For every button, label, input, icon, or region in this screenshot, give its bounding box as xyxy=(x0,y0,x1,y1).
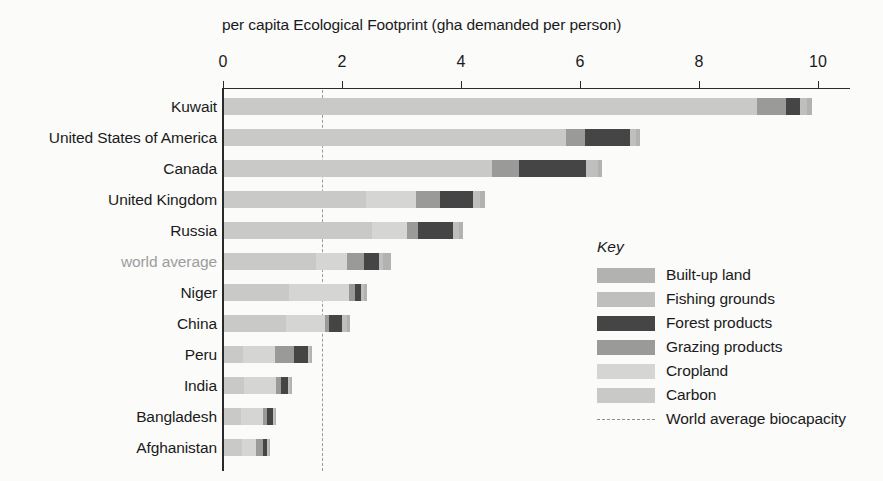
x-tick-label-6: 6 xyxy=(576,53,585,71)
bar-segment-built-up-land xyxy=(310,346,312,363)
bar-segment-carbon xyxy=(224,439,242,456)
category-label-united-states-of-america: United States of America xyxy=(49,127,217,148)
legend-label: World average biocapacity xyxy=(666,410,846,428)
stacked-bar[interactable] xyxy=(224,315,350,332)
bar-row: United Kingdom xyxy=(0,189,883,210)
bar-segment-cropland xyxy=(286,315,325,332)
bar-segment-carbon xyxy=(224,346,243,363)
chart-axis-title: per capita Ecological Footprint (gha dem… xyxy=(222,16,621,34)
legend-swatch xyxy=(597,292,655,307)
category-label-china: China xyxy=(177,313,217,334)
stacked-bar[interactable] xyxy=(224,191,485,208)
bar-segment-carbon xyxy=(224,284,289,301)
bar-segment-grazing-products xyxy=(407,222,418,239)
bar-segment-cropland xyxy=(372,222,408,239)
x-tick-label-2: 2 xyxy=(338,53,347,71)
stacked-bar[interactable] xyxy=(224,160,602,177)
legend-swatch xyxy=(597,268,655,283)
stacked-bar[interactable] xyxy=(224,253,391,270)
x-tick-2 xyxy=(342,81,343,89)
bar-segment-carbon xyxy=(224,408,241,425)
bar-segment-carbon xyxy=(224,253,316,270)
bar-row: United States of America xyxy=(0,127,883,148)
x-tick-label-10: 10 xyxy=(809,53,827,71)
bar-segment-built-up-land xyxy=(459,222,463,239)
bar-segment-cropland xyxy=(242,439,256,456)
bar-segment-grazing-products xyxy=(347,253,364,270)
stacked-bar[interactable] xyxy=(224,98,812,115)
bar-segment-forest-products xyxy=(519,160,587,177)
bar-segment-built-up-land xyxy=(364,284,367,301)
stacked-bar[interactable] xyxy=(224,408,276,425)
bar-segment-cropland xyxy=(241,408,264,425)
category-label-canada: Canada xyxy=(163,158,217,179)
bar-segment-forest-products xyxy=(786,98,800,115)
bar-segment-built-up-land xyxy=(290,377,292,394)
bar-segment-forest-products xyxy=(329,315,342,332)
legend-label: Forest products xyxy=(666,314,772,332)
category-label-afghanistan: Afghanistan xyxy=(136,437,217,458)
stacked-bar[interactable] xyxy=(224,439,270,456)
bar-segment-forest-products xyxy=(364,253,379,270)
legend-item[interactable]: Fishing grounds xyxy=(597,287,877,311)
bar-segment-built-up-land xyxy=(383,253,390,270)
category-label-united-kingdom: United Kingdom xyxy=(108,189,217,210)
legend-item[interactable]: Carbon xyxy=(597,383,877,407)
category-label-niger: Niger xyxy=(180,282,217,303)
legend-item[interactable]: Built-up land xyxy=(597,263,877,287)
legend-item[interactable]: Cropland xyxy=(597,359,877,383)
legend-swatch xyxy=(597,388,655,403)
legend-item[interactable]: World average biocapacity xyxy=(597,407,877,431)
bar-segment-grazing-products xyxy=(492,160,519,177)
stacked-bar[interactable] xyxy=(224,129,640,146)
x-tick-label-0: 0 xyxy=(219,53,228,71)
category-label-world-average: world average xyxy=(121,251,217,272)
bar-segment-built-up-land xyxy=(347,315,351,332)
stacked-bar[interactable] xyxy=(224,222,463,239)
bar-segment-cropland xyxy=(243,346,275,363)
bar-row: Afghanistan xyxy=(0,437,883,458)
bar-segment-built-up-land xyxy=(480,191,485,208)
bar-segment-grazing-products xyxy=(275,346,294,363)
bar-segment-built-up-land xyxy=(636,129,640,146)
bar-segment-carbon xyxy=(224,315,286,332)
legend-item[interactable]: Grazing products xyxy=(597,335,877,359)
x-tick-6 xyxy=(580,81,581,89)
bar-segment-cropland xyxy=(366,191,417,208)
x-tick-label-4: 4 xyxy=(457,53,466,71)
bar-segment-built-up-land xyxy=(807,98,812,115)
stacked-bar[interactable] xyxy=(224,284,367,301)
legend-label: Fishing grounds xyxy=(666,290,775,308)
legend-swatch xyxy=(597,316,655,331)
bar-segment-fishing-grounds xyxy=(586,160,598,177)
category-label-india: India xyxy=(184,375,217,396)
legend-swatch xyxy=(597,364,655,379)
legend-label: Built-up land xyxy=(666,266,751,284)
legend-item[interactable]: Forest products xyxy=(597,311,877,335)
x-tick-8 xyxy=(699,81,700,89)
bar-segment-grazing-products xyxy=(566,129,585,146)
bar-segment-forest-products xyxy=(281,377,288,394)
category-label-bangladesh: Bangladesh xyxy=(136,406,217,427)
bar-segment-carbon xyxy=(224,191,366,208)
legend-swatch xyxy=(597,340,655,355)
bar-row: Canada xyxy=(0,158,883,179)
bar-segment-fishing-grounds xyxy=(800,98,807,115)
x-tick-10 xyxy=(818,81,819,89)
bar-segment-forest-products xyxy=(585,129,630,146)
bar-segment-carbon xyxy=(224,98,757,115)
legend-dashline-icon xyxy=(597,412,655,427)
x-tick-4 xyxy=(461,81,462,89)
legend-label: Grazing products xyxy=(666,338,782,356)
bar-segment-built-up-land xyxy=(275,408,276,425)
legend-label: Carbon xyxy=(666,386,716,404)
bar-segment-carbon xyxy=(224,160,492,177)
bar-segment-built-up-land xyxy=(598,160,602,177)
bar-segment-forest-products xyxy=(440,191,473,208)
bar-segment-built-up-land xyxy=(269,439,270,456)
stacked-bar[interactable] xyxy=(224,346,312,363)
bar-segment-cropland xyxy=(316,253,347,270)
bar-segment-cropland xyxy=(244,377,277,394)
bar-segment-forest-products xyxy=(418,222,453,239)
stacked-bar[interactable] xyxy=(224,377,292,394)
